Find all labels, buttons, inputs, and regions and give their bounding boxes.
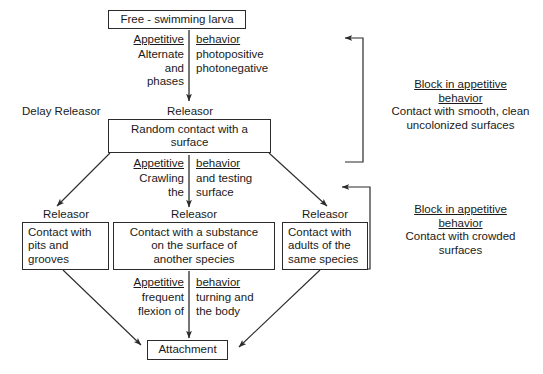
box-contact-adults: Contact with adults of the same species [282,222,368,270]
block-lower-heading: Block in appetitive behavior [383,203,538,230]
stage3-left-text: frequent flexion of [100,291,184,318]
label-releasor-adults: Releasor [289,208,361,222]
stage3-appetitive-label: Appetitive [108,276,184,290]
block-annotation-lower: Block in appetitive behavior Contact wit… [383,203,538,257]
feedback-loop-upper [345,38,363,162]
box-attachment: Attachment [147,340,228,360]
stage1-left-text: Alternate and phases [100,48,184,89]
box-random-contact: Random contact with a surface [108,119,271,153]
label-delay-releasor: Delay Releasor [22,105,132,119]
label-releasor-random: Releasor [155,105,225,119]
block-upper-text: Contact with smooth, clean uncolonized s… [383,105,538,132]
box-contact-substance: Contact with a substance on the surface … [113,222,275,270]
label-releasor-substance: Releasor [158,208,230,222]
stage2-left-text: Crawling the [100,172,184,199]
stage2-right-text: and testing surface [196,172,296,199]
stage3-right-text: turning and the body [196,291,296,318]
stage1-right-text: photopositive photonegative [196,48,296,75]
block-lower-text: Contact with crowded surfaces [383,230,538,257]
stage2-appetitive-label: Appetitive [108,157,184,171]
box-contact-pits-grooves: Contact with pits and grooves [22,222,109,270]
stage1-appetitive-label: Appetitive [108,33,184,47]
stage2-behavior-label: behavior [196,157,286,171]
box-free-swimming-larva: Free - swimming larva [108,10,246,29]
stage1-behavior-label: behavior [196,33,286,47]
block-annotation-upper: Block in appetitive behavior Contact wit… [383,78,538,132]
label-releasor-pits: Releasor [30,208,102,222]
flowchart-diagram: Free - swimming larva Random contact wit… [0,0,543,374]
stage3-behavior-label: behavior [196,276,286,290]
block-upper-heading: Block in appetitive behavior [383,78,538,105]
